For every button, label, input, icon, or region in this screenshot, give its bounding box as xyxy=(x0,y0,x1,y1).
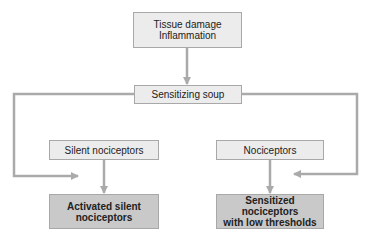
node-tissue-damage-line1: Tissue damage xyxy=(154,19,222,30)
node-sensitizing-soup: Sensitizing soup xyxy=(134,85,242,104)
arrow-soup-to-left xyxy=(14,94,134,176)
node-sensitizing-soup-label: Sensitizing soup xyxy=(152,89,225,100)
node-sensitized-line1: Sensitized nociceptors xyxy=(217,195,323,217)
node-activated-line2: nociceptors xyxy=(67,212,141,223)
node-silent-nociceptors: Silent nociceptors xyxy=(49,140,159,160)
node-sensitized-line2: with low thresholds xyxy=(217,217,323,228)
node-tissue-damage: Tissue damage Inflammation xyxy=(133,12,242,48)
node-tissue-damage-line2: Inflammation xyxy=(154,30,222,41)
node-sensitized-nociceptors: Sensitized nociceptors with low threshol… xyxy=(216,194,324,229)
node-activated-silent-nociceptors: Activated silent nociceptors xyxy=(49,194,159,229)
node-silent-nociceptors-label: Silent nociceptors xyxy=(65,145,144,156)
node-activated-line1: Activated silent xyxy=(67,201,141,212)
node-nociceptors: Nociceptors xyxy=(216,140,324,160)
node-nociceptors-label: Nociceptors xyxy=(244,145,297,156)
arrow-soup-to-right xyxy=(242,94,357,174)
